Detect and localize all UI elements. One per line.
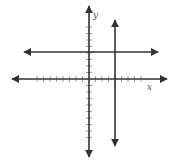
x-axis-label: x xyxy=(147,82,152,92)
coordinate-plane: y x xyxy=(0,0,173,163)
y-axis-label: y xyxy=(92,10,99,20)
